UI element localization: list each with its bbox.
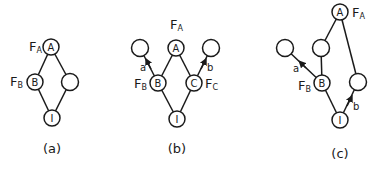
tag-FB: FB: [10, 74, 23, 90]
node-label: I: [176, 113, 179, 126]
node-c-L: [277, 40, 294, 57]
node-b-C: C: [186, 75, 202, 91]
lattice-diagrams: A B I FA FB (a) A: [0, 0, 382, 173]
node-b-I: I: [169, 111, 185, 127]
node-a-R: [62, 74, 79, 91]
tag-FB: FB: [134, 76, 147, 92]
node-label: I: [339, 114, 342, 127]
node-label: A: [337, 6, 344, 19]
node-label: A: [48, 41, 55, 54]
tag-FC: FC: [205, 76, 218, 92]
node-b-B: B: [150, 75, 166, 91]
node-a-A: A: [43, 39, 59, 55]
node-c-A: A: [332, 4, 348, 20]
caption-b: (b): [168, 141, 186, 156]
edge-label-b: b: [353, 101, 359, 112]
edge-c-A-R: [340, 12, 358, 82]
node-label: B: [319, 77, 326, 90]
node-label: B: [155, 77, 162, 90]
edge-label-a: a: [140, 62, 146, 73]
node-b-A: A: [168, 40, 184, 56]
tag-FA: FA: [352, 5, 365, 21]
node-label: B: [32, 76, 39, 89]
node-a-I: I: [44, 110, 60, 126]
arrow-c-b: [347, 98, 351, 106]
tag-FA: FA: [170, 17, 183, 33]
tag-FB: FB: [298, 78, 311, 94]
diagram-b: A B C I FA FB FC a b (b): [132, 17, 220, 156]
edge-label-b: b: [207, 62, 213, 73]
node-c-R: [350, 74, 367, 91]
arrow-b-a: [147, 61, 151, 69]
node-label: C: [191, 77, 198, 90]
arrow-b-b: [201, 61, 205, 69]
node-c-B: B: [314, 75, 330, 91]
tag-FA: FA: [29, 39, 42, 55]
arrow-c-a: [301, 63, 306, 68]
node-b-L: [132, 40, 149, 57]
node-b-R: [203, 40, 220, 57]
node-label: A: [173, 42, 180, 55]
diagram-a: A B I FA FB (a): [10, 39, 79, 156]
node-label: I: [51, 112, 54, 125]
node-a-B: B: [27, 74, 43, 90]
diagram-c: A B I FA FB a b (c): [277, 4, 367, 161]
node-c-I: I: [332, 112, 348, 128]
caption-c: (c): [331, 146, 348, 161]
node-c-M: [313, 40, 330, 57]
caption-a: (a): [43, 141, 61, 156]
edge-label-a: a: [293, 63, 299, 74]
